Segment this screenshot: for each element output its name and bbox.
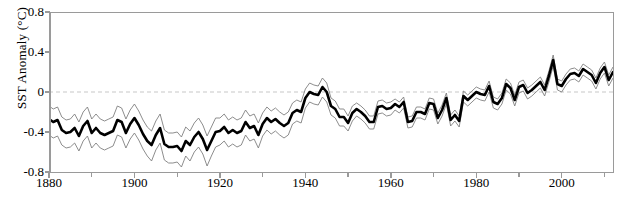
y-tick-mark xyxy=(45,11,50,12)
x-minor-tick-mark xyxy=(604,173,605,177)
top-spine xyxy=(49,12,614,13)
chart-canvas xyxy=(49,12,613,172)
x-major-tick-mark xyxy=(476,173,477,178)
x-major-tick-mark xyxy=(134,173,135,178)
plot-area xyxy=(49,12,613,172)
y-tick-label: 0 xyxy=(4,85,44,98)
x-axis-tick-labels: 1880190019201940196019802000 xyxy=(0,176,625,196)
y-tick-mark xyxy=(45,131,50,132)
upper-uncertainty-line xyxy=(49,55,613,137)
x-major-tick-mark xyxy=(390,173,391,178)
y-tick-label: 0.4 xyxy=(4,45,44,58)
y-tick-label: 0.8 xyxy=(4,5,44,18)
x-minor-tick-mark xyxy=(262,173,263,177)
right-spine xyxy=(613,12,614,173)
lower-uncertainty-line xyxy=(49,66,613,167)
x-minor-tick-mark xyxy=(433,173,434,177)
x-minor-tick-mark xyxy=(91,173,92,177)
y-tick-mark xyxy=(45,91,50,92)
y-axis-tick-labels: 0.80.40-0.4-0.8 xyxy=(0,0,44,203)
y-tick-mark xyxy=(45,51,50,52)
x-major-tick-mark xyxy=(219,173,220,178)
x-minor-tick-mark xyxy=(347,173,348,177)
x-major-tick-mark xyxy=(48,173,49,178)
y-tick-label: -0.4 xyxy=(4,125,44,138)
x-minor-tick-mark xyxy=(177,173,178,177)
x-major-tick-mark xyxy=(305,173,306,178)
x-major-tick-mark xyxy=(561,173,562,178)
x-minor-tick-mark xyxy=(518,173,519,177)
sst-anomaly-figure: SST Anomaly (°C) 0.80.40-0.4-0.8 1880190… xyxy=(0,0,625,203)
